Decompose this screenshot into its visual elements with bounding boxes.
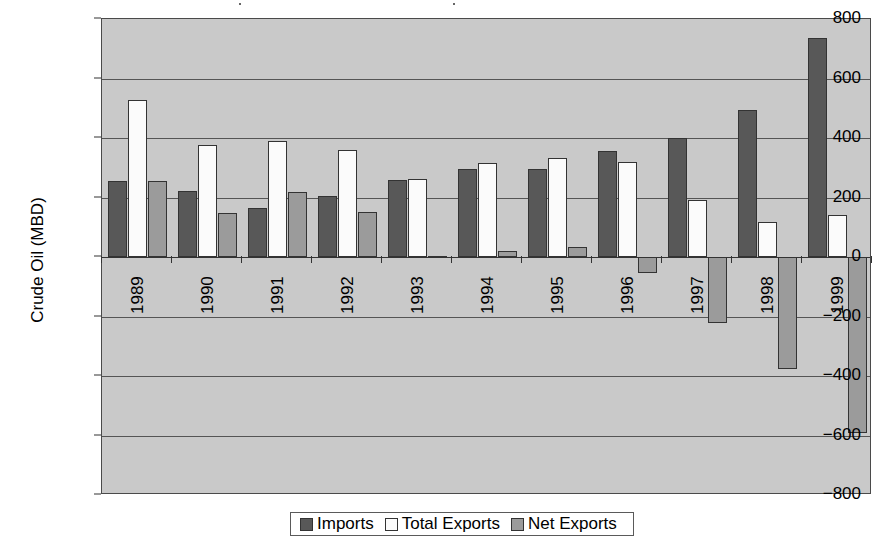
y-tick-mark [94, 196, 101, 197]
scan-speck [453, 3, 455, 5]
y-tick-mark [94, 137, 101, 138]
x-tick-label-1989: 1989 [128, 276, 148, 314]
bar-group [178, 19, 237, 493]
bar-net-exports-1989 [148, 181, 167, 257]
y-tick-label: 400 [833, 127, 861, 147]
bar-imports-1998 [738, 110, 757, 257]
legend-swatch-icon [385, 518, 398, 531]
bar-total-exports-1989 [128, 100, 147, 257]
bar-net-exports-1991 [288, 192, 307, 257]
x-tick-mark [451, 256, 452, 263]
y-tick-mark [94, 375, 101, 376]
bar-group [668, 19, 727, 493]
x-tick-mark [171, 256, 172, 263]
x-tick-mark [101, 256, 102, 263]
legend-swatch-icon [300, 518, 313, 531]
bar-total-exports-1991 [268, 141, 287, 257]
bar-net-exports-1992 [358, 212, 377, 257]
bar-imports-1995 [528, 169, 547, 257]
x-tick-label-1995: 1995 [548, 276, 568, 314]
bar-group [598, 19, 657, 493]
bar-group [318, 19, 377, 493]
bar-total-exports-1997 [688, 200, 707, 257]
y-tick-label: 0 [852, 246, 861, 266]
x-tick-mark [661, 256, 662, 263]
y-tick-mark [94, 18, 101, 19]
x-tick-label-1999: 1999 [828, 276, 848, 314]
x-tick-mark [521, 256, 522, 263]
x-tick-mark [871, 256, 872, 263]
x-tick-label-1998: 1998 [758, 276, 778, 314]
bar-imports-1991 [248, 208, 267, 257]
y-tick-label: −600 [823, 425, 861, 445]
bar-total-exports-1995 [548, 158, 567, 257]
bar-net-exports-1998 [778, 257, 797, 369]
bar-imports-1990 [178, 191, 197, 257]
bar-imports-1994 [458, 169, 477, 257]
bar-imports-1999 [808, 38, 827, 257]
bar-imports-1992 [318, 196, 337, 257]
bar-imports-1993 [388, 180, 407, 257]
y-tick-label: −800 [823, 484, 861, 504]
x-tick-label-1993: 1993 [408, 276, 428, 314]
plot-inner [102, 19, 870, 493]
bar-total-exports-1990 [198, 145, 217, 257]
bar-group [458, 19, 517, 493]
bar-net-exports-1996 [638, 257, 657, 273]
y-tick-mark [94, 77, 101, 78]
bar-total-exports-1994 [478, 163, 497, 257]
x-tick-label-1994: 1994 [478, 276, 498, 314]
bar-total-exports-1998 [758, 222, 777, 257]
x-tick-mark [731, 256, 732, 263]
y-tick-mark [94, 315, 101, 316]
x-tick-label-1996: 1996 [618, 276, 638, 314]
y-tick-mark [94, 434, 101, 435]
x-tick-label-1997: 1997 [688, 276, 708, 314]
bar-net-exports-1993 [428, 256, 447, 258]
x-tick-mark [801, 256, 802, 263]
bar-total-exports-1999 [828, 215, 847, 257]
bar-total-exports-1992 [338, 150, 357, 257]
bar-net-exports-1990 [218, 213, 237, 257]
x-tick-mark [311, 256, 312, 263]
bar-imports-1997 [668, 138, 687, 257]
y-axis-title: Crude Oil (MBD) [28, 130, 48, 390]
legend-label: Net Exports [528, 514, 617, 534]
x-tick-mark [241, 256, 242, 263]
legend-swatch-icon [511, 518, 524, 531]
x-tick-mark [591, 256, 592, 263]
y-tick-label: 800 [833, 8, 861, 28]
bar-net-exports-1997 [708, 257, 727, 323]
bar-imports-1996 [598, 151, 617, 257]
legend-item-net-exports[interactable]: Net Exports [511, 514, 617, 534]
crude-oil-bar-chart: Crude Oil (MBD) ImportsTotal ExportsNet … [0, 0, 883, 547]
bar-net-exports-1999 [848, 257, 867, 433]
bar-total-exports-1993 [408, 179, 427, 257]
bar-imports-1989 [108, 181, 127, 257]
legend-item-imports[interactable]: Imports [300, 514, 374, 534]
x-tick-label-1991: 1991 [268, 276, 288, 314]
scan-speck [239, 3, 241, 5]
y-tick-label: 600 [833, 68, 861, 88]
bar-net-exports-1994 [498, 251, 517, 257]
legend: ImportsTotal ExportsNet Exports [290, 512, 634, 536]
y-tick-label: −400 [823, 365, 861, 385]
bar-group [738, 19, 797, 493]
bar-group [388, 19, 447, 493]
legend-label: Imports [317, 514, 374, 534]
bar-net-exports-1995 [568, 247, 587, 257]
y-tick-mark [94, 494, 101, 495]
bar-group [528, 19, 587, 493]
bar-total-exports-1996 [618, 162, 637, 257]
legend-item-total-exports[interactable]: Total Exports [385, 514, 500, 534]
x-tick-label-1992: 1992 [338, 276, 358, 314]
legend-label: Total Exports [402, 514, 500, 534]
bar-group [108, 19, 167, 493]
plot-area [101, 18, 871, 494]
x-tick-label-1990: 1990 [198, 276, 218, 314]
bar-group [248, 19, 307, 493]
y-tick-label: 200 [833, 187, 861, 207]
y-tick-mark [94, 256, 101, 257]
x-tick-mark [381, 256, 382, 263]
